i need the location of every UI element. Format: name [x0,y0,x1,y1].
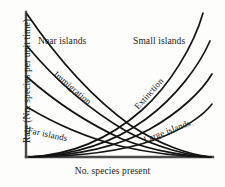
island-biogeography-figure: Near islands Small islands Immigration E… [0,0,225,187]
plot-area [0,0,225,187]
extinction-curve-intermediate-large [29,74,212,157]
y-axis-label: Rate (No. species per unit time) [22,6,32,156]
annotation-near-islands: Near islands [38,36,86,46]
x-axis-label: No. species present [0,166,225,176]
annotation-small-islands: Small islands [133,36,185,46]
